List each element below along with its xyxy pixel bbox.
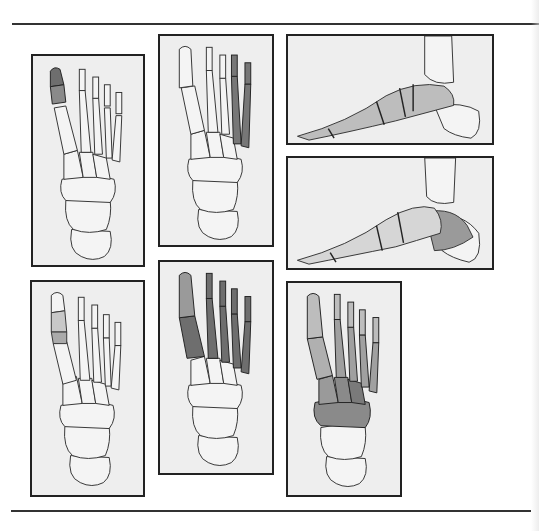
bottom-rule [11,510,531,512]
page-edge-shadow [531,0,539,531]
foot-diagram-panel-6 [158,260,274,475]
foot-diagram-panel-7 [286,281,402,497]
foot-diagram-panel-2 [158,34,274,247]
foot-skeleton-dorsal-illustration [160,36,272,245]
foot-skeleton-dorsal-illustration [32,282,143,495]
foot-diagram-panel-5 [30,280,145,497]
foot-skeleton-lateral-illustration [288,158,492,268]
foot-diagram-panel-1 [31,54,145,267]
foot-diagram-panel-3 [286,34,494,145]
foot-skeleton-dorsal-illustration [160,262,272,473]
foot-diagram-panel-4 [286,156,494,270]
foot-skeleton-dorsal-illustration [288,283,400,495]
foot-skeleton-lateral-illustration [288,36,492,143]
foot-skeleton-dorsal-illustration [33,56,143,265]
top-rule [12,23,539,25]
